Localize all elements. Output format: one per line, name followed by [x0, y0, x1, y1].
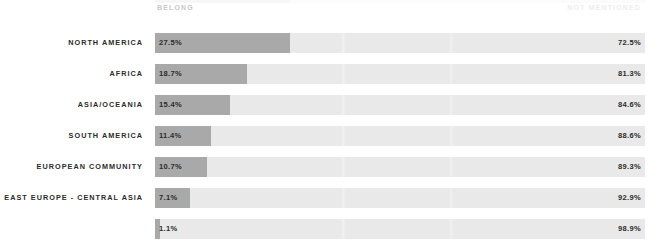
row-category-label: AFRICA: [4, 64, 143, 84]
stacked-bar-chart: BELONG NOT MENTIONED NORTH AMERICA27.5%7…: [0, 0, 650, 251]
bar-track-not-mentioned: [155, 33, 645, 53]
chart-rows: NORTH AMERICA27.5%72.5%AFRICA18.7%81.3%A…: [0, 0, 650, 251]
bar-value-belong: 10.7%: [159, 157, 182, 177]
bar-value-belong: 11.4%: [159, 126, 182, 146]
bar-value-belong: 27.5%: [159, 33, 182, 53]
bar-track-not-mentioned: [155, 64, 645, 84]
bar-value-not-mentioned: 72.5%: [618, 33, 641, 53]
row-category-label: ASIA/OCEANIA: [4, 95, 143, 115]
row-category-label: [4, 219, 143, 239]
bar-track-not-mentioned: [155, 126, 645, 146]
bar-value-belong: 1.1%: [159, 219, 178, 239]
bar-value-not-mentioned: 88.6%: [618, 126, 641, 146]
chart-row: EUROPEAN COMMUNITY10.7%89.3%: [0, 157, 650, 177]
chart-row: EAST EUROPE - CENTRAL ASIA7.1%92.9%: [0, 188, 650, 208]
chart-row: SOUTH AMERICA11.4%88.6%: [0, 126, 650, 146]
row-category-label: EUROPEAN COMMUNITY: [4, 157, 143, 177]
row-category-label: SOUTH AMERICA: [4, 126, 143, 146]
bar-value-not-mentioned: 89.3%: [618, 157, 641, 177]
bar-track-not-mentioned: [155, 157, 645, 177]
bar-value-not-mentioned: 81.3%: [618, 64, 641, 84]
row-category-label: EAST EUROPE - CENTRAL ASIA: [4, 188, 143, 208]
bar-value-belong: 7.1%: [159, 188, 178, 208]
chart-row: ASIA/OCEANIA15.4%84.6%: [0, 95, 650, 115]
chart-row: AFRICA18.7%81.3%: [0, 64, 650, 84]
row-category-label: NORTH AMERICA: [4, 33, 143, 53]
bar-value-not-mentioned: 98.9%: [618, 219, 641, 239]
bar-value-belong: 18.7%: [159, 64, 182, 84]
bar-value-not-mentioned: 84.6%: [618, 95, 641, 115]
bar-track-not-mentioned: [155, 188, 645, 208]
bar-track-not-mentioned: [155, 95, 645, 115]
bar-value-belong: 15.4%: [159, 95, 182, 115]
bar-track-not-mentioned: [155, 219, 645, 239]
bar-value-not-mentioned: 92.9%: [618, 188, 641, 208]
chart-row: NORTH AMERICA27.5%72.5%: [0, 33, 650, 53]
chart-row: 1.1%98.9%: [0, 219, 650, 239]
